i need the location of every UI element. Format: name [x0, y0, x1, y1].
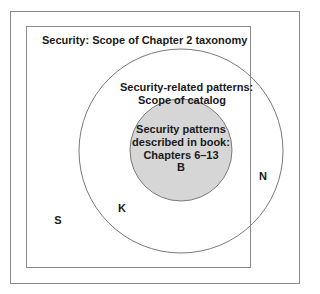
book-set-label-line2: described in book:: [131, 136, 231, 149]
taxonomy-letter-s: S: [53, 214, 63, 227]
catalog-letter-k: K: [117, 202, 127, 215]
catalog-set-label-line1: Security-related patterns:: [120, 81, 244, 94]
catalog-set-label-line2: Scope of catalog: [120, 94, 244, 107]
outside-letter-n: N: [258, 170, 268, 183]
taxonomy-set-label: Security: Scope of Chapter 2 taxonomy: [42, 34, 247, 47]
book-set-label-line1: Security patterns: [131, 123, 231, 136]
book-set-letter: B: [131, 161, 231, 174]
